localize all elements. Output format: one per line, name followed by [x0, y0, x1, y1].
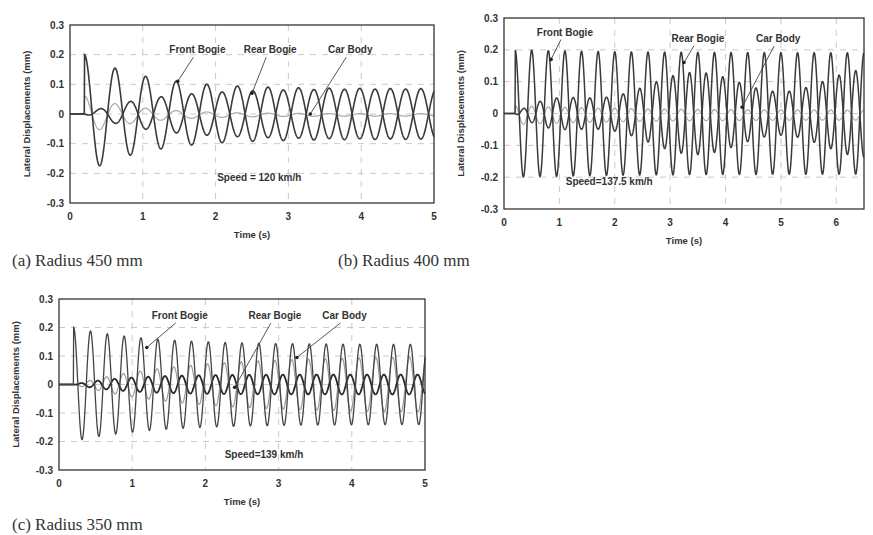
svg-text:Front Bogie: Front Bogie	[152, 310, 209, 321]
y-tick-label: -0.2	[47, 168, 65, 179]
arrow-icon	[252, 57, 266, 93]
x-tick-label: 5	[422, 478, 428, 489]
svg-text:Car Body: Car Body	[322, 310, 367, 321]
y-tick-label: 0.3	[484, 13, 498, 24]
speed-annotation: Speed=137.5 km/h	[566, 176, 653, 187]
arrow-icon	[684, 46, 694, 63]
arrow-icon	[297, 323, 341, 357]
y-axis-title: Lateral Displacements (mm)	[455, 50, 466, 177]
x-tick-label: 4	[723, 217, 729, 228]
series-label-front-bogie: Front Bogie	[169, 44, 226, 83]
speed-annotation: Speed=139 km/h	[225, 449, 304, 460]
y-tick-label: -0.1	[481, 140, 499, 151]
series-label-front-bogie: Front Bogie	[537, 27, 594, 62]
series-label-car-body: Car Body	[295, 310, 367, 359]
series-label-front-bogie: Front Bogie	[145, 310, 208, 349]
x-axis-title: Time (s)	[234, 229, 270, 240]
x-tick-label: 3	[276, 478, 282, 489]
arrow-icon	[147, 323, 176, 348]
x-tick-label: 4	[349, 478, 355, 489]
x-tick-label: 1	[557, 217, 563, 228]
x-tick-label: 5	[778, 217, 784, 228]
y-tick-label: -0.1	[36, 408, 54, 419]
svg-text:Car Body: Car Body	[328, 44, 373, 55]
x-tick-label: 3	[286, 211, 292, 222]
y-tick-label: 0.3	[50, 20, 64, 31]
chart-a-plot: 0.30.20.10-0.1-0.2-0.3012345Time (s)Late…	[0, 0, 440, 250]
x-tick-label: 2	[213, 211, 219, 222]
chart-panel-c: 0.30.20.10-0.1-0.2-0.3012345Time (s)Late…	[0, 285, 440, 515]
arrow-icon	[310, 57, 346, 114]
chart-panel-b: 0.30.20.10-0.1-0.2-0.30123456Time (s)Lat…	[440, 0, 873, 250]
x-tick-label: 3	[667, 217, 673, 228]
chart-panel-a: 0.30.20.10-0.1-0.2-0.3012345Time (s)Late…	[0, 0, 440, 250]
y-tick-label: -0.1	[47, 138, 65, 149]
x-tick-label: 5	[431, 211, 437, 222]
y-tick-label: 0.2	[39, 322, 53, 333]
caption-c: (c) Radius 350 mm	[12, 515, 143, 535]
series-label-car-body: Car Body	[308, 44, 373, 116]
y-tick-label: 0.2	[484, 44, 498, 55]
y-tick-label: -0.3	[47, 198, 65, 209]
y-tick-label: 0	[47, 379, 53, 390]
caption-b: (b) Radius 400 mm	[338, 251, 470, 271]
gridlines	[59, 299, 425, 470]
y-axis-title: Lateral Displacements (mm)	[21, 51, 32, 178]
x-tick-label: 2	[203, 478, 209, 489]
svg-text:Front Bogie: Front Bogie	[537, 27, 594, 38]
svg-text:Rear Bogie: Rear Bogie	[671, 33, 724, 44]
x-tick-label: 0	[67, 211, 73, 222]
y-tick-label: 0	[58, 109, 64, 120]
svg-text:Rear Bogie: Rear Bogie	[249, 310, 302, 321]
x-tick-label: 4	[358, 211, 364, 222]
svg-text:Front Bogie: Front Bogie	[169, 44, 226, 55]
svg-text:Car Body: Car Body	[756, 33, 801, 44]
x-axis-title: Time (s)	[666, 235, 702, 246]
x-tick-label: 6	[834, 217, 840, 228]
y-tick-label: -0.3	[36, 465, 54, 476]
x-axis-title: Time (s)	[224, 496, 260, 507]
arrow-icon	[178, 57, 194, 81]
chart-c-plot: 0.30.20.10-0.1-0.2-0.3012345Time (s)Late…	[0, 285, 440, 515]
y-tick-label: 0.2	[50, 49, 64, 60]
x-tick-label: 1	[129, 478, 135, 489]
x-tick-label: 1	[140, 211, 146, 222]
y-tick-label: 0.3	[39, 294, 53, 305]
y-tick-label: 0.1	[39, 351, 53, 362]
svg-text:Rear Bogie: Rear Bogie	[244, 44, 297, 55]
x-tick-label: 2	[612, 217, 618, 228]
y-tick-label: 0.1	[50, 79, 64, 90]
speed-annotation: Speed = 120 km/h	[217, 172, 301, 183]
x-tick-label: 0	[501, 217, 507, 228]
y-tick-label: -0.3	[481, 204, 499, 215]
y-tick-label: -0.2	[481, 172, 499, 183]
series-label-rear-bogie: Rear Bogie	[244, 44, 297, 95]
x-tick-label: 0	[56, 478, 62, 489]
y-tick-label: -0.2	[36, 436, 54, 447]
y-tick-label: 0	[492, 108, 498, 119]
y-axis-title: Lateral Displacements (mm)	[10, 321, 21, 448]
y-tick-label: 0.1	[484, 76, 498, 87]
chart-b-plot: 0.30.20.10-0.1-0.2-0.30123456Time (s)Lat…	[440, 0, 873, 250]
caption-a: (a) Radius 450 mm	[12, 251, 143, 271]
